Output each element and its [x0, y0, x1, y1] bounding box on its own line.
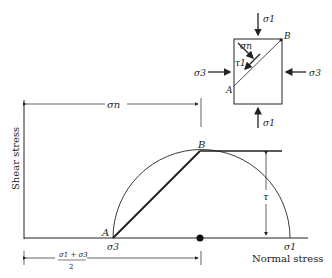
center-numerator: σ1 + σ3 [59, 251, 88, 259]
mohr-circle-diagram: Shear stress Normal stress A B σn σ3 σ1 … [0, 0, 332, 278]
element-left-label: σ3 [194, 68, 206, 78]
element-corner-a: A [225, 85, 233, 95]
stress-element [208, 13, 306, 128]
tau-label: τ [263, 191, 269, 202]
point-a-label: A [101, 227, 109, 238]
element-shear-label: τ1 [235, 58, 246, 68]
sigma-n-label: σn [107, 99, 120, 110]
element-normal-label: σn [240, 41, 252, 51]
point-b-label: B [197, 139, 205, 150]
x-axis-label: Normal stress [252, 253, 323, 264]
sigma-3-label: σ3 [107, 242, 119, 252]
chord-ab [113, 151, 200, 238]
center-denominator: 2 [69, 263, 73, 271]
circle-center-dot [197, 235, 204, 242]
element-bottom-label: σ1 [263, 118, 275, 128]
element-corner-b: B [283, 31, 291, 41]
sigma-1-label: σ1 [284, 242, 296, 252]
element-top-label: σ1 [263, 14, 275, 24]
element-right-label: σ3 [309, 68, 321, 78]
y-axis-label: Shear stress [10, 127, 21, 190]
